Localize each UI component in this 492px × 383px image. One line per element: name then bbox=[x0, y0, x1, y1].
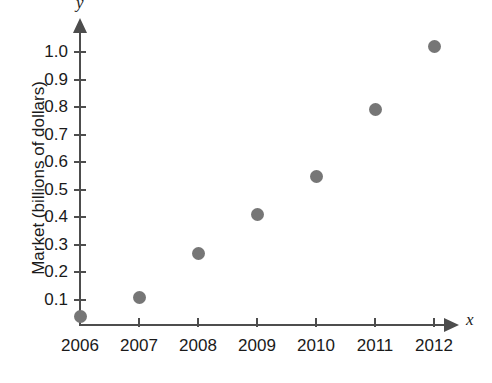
x-axis-tick bbox=[374, 318, 376, 327]
y-axis-tick bbox=[74, 161, 86, 163]
data-point bbox=[428, 40, 441, 53]
data-point bbox=[369, 103, 382, 116]
y-axis-tick-label: 1.0 bbox=[24, 43, 68, 60]
y-axis-tick bbox=[74, 271, 86, 273]
x-axis-tick bbox=[138, 318, 140, 327]
y-axis-variable-label: y bbox=[76, 0, 84, 13]
y-axis-arrow-icon bbox=[73, 18, 87, 33]
data-point bbox=[133, 291, 146, 304]
y-axis-tick bbox=[74, 216, 86, 218]
x-axis-tick bbox=[197, 318, 199, 327]
y-axis-tick bbox=[74, 189, 86, 191]
scatter-plot-figure: x y Market (billions of dollars) 0.10.20… bbox=[0, 0, 492, 383]
y-axis-line bbox=[79, 30, 81, 326]
y-axis-tick-label: 0.5 bbox=[24, 181, 68, 198]
y-axis-tick bbox=[74, 106, 86, 108]
x-axis-tick-label: 2012 bbox=[399, 336, 469, 356]
data-point bbox=[192, 247, 205, 260]
y-axis-tick-label: 0.4 bbox=[24, 208, 68, 225]
y-axis-tick bbox=[74, 79, 86, 81]
x-axis-tick bbox=[315, 318, 317, 327]
x-axis-tick bbox=[433, 318, 435, 327]
y-axis-tick bbox=[74, 244, 86, 246]
y-axis-tick bbox=[74, 51, 86, 53]
y-axis-tick-label: 0.1 bbox=[24, 291, 68, 308]
data-point bbox=[251, 208, 264, 221]
x-axis-variable-label: x bbox=[466, 310, 474, 330]
x-axis-tick bbox=[256, 318, 258, 327]
y-axis-tick-label: 0.3 bbox=[24, 236, 68, 253]
y-axis-tick-label: 0.2 bbox=[24, 263, 68, 280]
y-axis-tick-label: 0.8 bbox=[24, 98, 68, 115]
y-axis-tick bbox=[74, 299, 86, 301]
data-point bbox=[310, 170, 323, 183]
data-point bbox=[74, 310, 87, 323]
x-axis-arrow-icon bbox=[444, 318, 459, 332]
y-axis-tick bbox=[74, 134, 86, 136]
x-axis-line bbox=[79, 324, 446, 326]
y-axis-tick-label: 0.9 bbox=[24, 71, 68, 88]
y-axis-tick-label: 0.7 bbox=[24, 126, 68, 143]
y-axis-tick-label: 0.6 bbox=[24, 153, 68, 170]
